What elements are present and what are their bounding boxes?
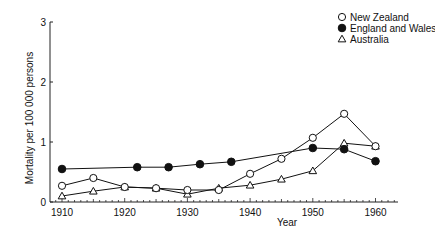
- open-circle-marker: [341, 110, 348, 117]
- x-tick-label: 1950: [302, 207, 325, 218]
- open-circle-marker: [247, 170, 254, 177]
- open-circle-marker: [58, 182, 65, 189]
- open-circle-marker: [121, 183, 128, 190]
- x-tick-label: 1920: [114, 207, 137, 218]
- series-new-zealand: [58, 110, 379, 193]
- filled-circle-marker: [372, 157, 380, 165]
- legend-item: Australia: [338, 34, 389, 45]
- y-tick-label: 1: [40, 137, 46, 148]
- x-tick-label: 1910: [51, 207, 74, 218]
- data-series: [58, 110, 379, 199]
- legend: New ZealandEngland and WalesAustralia: [338, 12, 435, 45]
- legend-item: New Zealand: [338, 12, 409, 23]
- open-circle-marker: [215, 186, 222, 193]
- x-tick-label: 1930: [176, 207, 199, 218]
- series-line: [62, 148, 376, 169]
- series-england-and-wales: [58, 144, 379, 173]
- filled-circle-marker: [165, 163, 173, 171]
- series-line: [62, 114, 376, 190]
- filled-circle-marker: [196, 160, 204, 168]
- open-circle-icon: [338, 13, 345, 20]
- mortality-line-chart: 0123191019201930194019501960 New Zealand…: [0, 0, 435, 240]
- legend-item: England and Wales: [338, 23, 435, 34]
- y-axis-title: Mortality per 100 000 persons: [24, 52, 35, 184]
- x-tick-label: 1940: [239, 207, 262, 218]
- filled-circle-marker: [309, 144, 317, 152]
- open-circle-marker: [184, 186, 191, 193]
- y-tick-label: 3: [40, 17, 46, 28]
- legend-label: Australia: [350, 34, 389, 45]
- filled-circle-marker: [227, 158, 235, 166]
- filled-circle-icon: [338, 24, 346, 32]
- legend-label: New Zealand: [350, 12, 409, 23]
- open-triangle-icon: [338, 35, 346, 42]
- open-circle-marker: [309, 134, 316, 141]
- open-circle-marker: [278, 155, 285, 162]
- filled-circle-marker: [58, 165, 66, 173]
- filled-circle-marker: [133, 163, 141, 171]
- y-tick-label: 0: [40, 197, 46, 208]
- open-circle-marker: [152, 185, 159, 192]
- y-tick-label: 2: [40, 77, 46, 88]
- filled-circle-marker: [340, 145, 348, 153]
- x-axis-title: Year: [277, 217, 298, 228]
- open-circle-marker: [90, 174, 97, 181]
- legend-label: England and Wales: [350, 23, 435, 34]
- open-circle-marker: [372, 143, 379, 150]
- x-tick-label: 1960: [364, 207, 387, 218]
